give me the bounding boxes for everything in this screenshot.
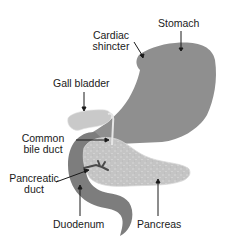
pancreatic-duct-label: Pancreatic duct bbox=[6, 173, 62, 195]
stomach-shape bbox=[85, 43, 216, 145]
cardiac-sphincter-arrow bbox=[134, 42, 142, 55]
cardiac-sphincter-label: Cardiac shincter bbox=[88, 30, 134, 52]
common-bile-duct-label-line2: bile duct bbox=[20, 144, 66, 155]
common-bile-duct-label: Common bile duct bbox=[20, 133, 66, 155]
pancreatic-duct-label-line2: duct bbox=[6, 184, 62, 195]
cardiac-sphincter-label-line2: shincter bbox=[88, 41, 134, 52]
anatomy-diagram: Stomach Cardiac shincter Gall bladder Co… bbox=[0, 0, 228, 241]
pancreas-label: Pancreas bbox=[137, 219, 181, 230]
stomach-label: Stomach bbox=[158, 18, 199, 29]
gall-bladder-arrowhead bbox=[82, 107, 86, 111]
gall-bladder-label: Gall bladder bbox=[53, 78, 110, 89]
duodenum-label: Duodenum bbox=[53, 219, 104, 230]
